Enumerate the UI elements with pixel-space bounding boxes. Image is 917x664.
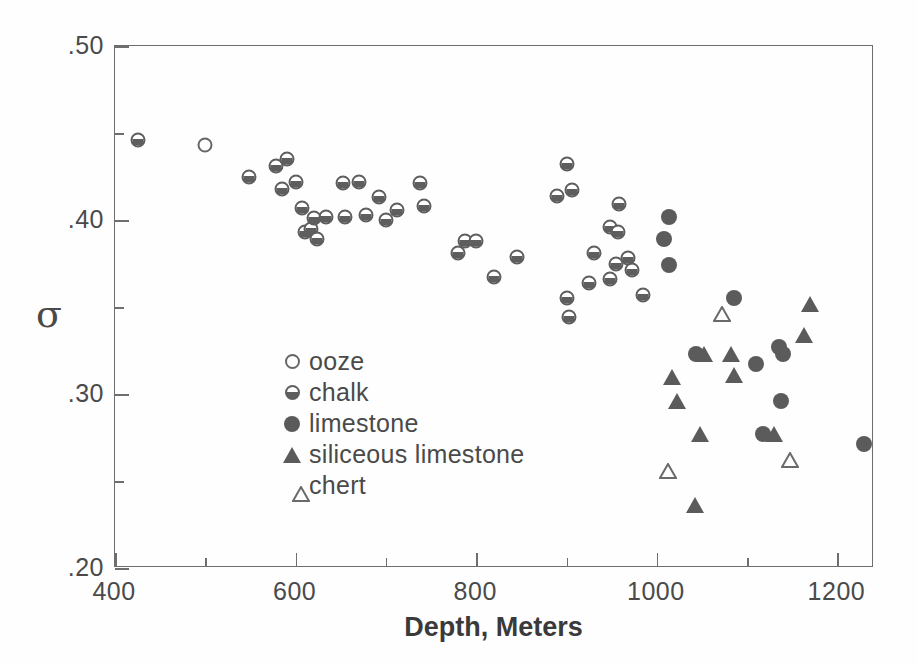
data-point-chalk [413,176,428,191]
data-point-siliceous-limestone [695,346,713,362]
data-point-limestone [775,346,791,362]
data-point-siliceous-limestone [801,296,819,312]
legend-item-chalk: chalk [275,377,605,408]
data-point-chalk [389,202,404,217]
data-point-chalk [279,152,294,167]
x-tick-label: 800 [454,577,497,606]
data-point-siliceous-limestone [722,346,740,362]
data-point-chalk [351,174,366,189]
x-tick-label: 600 [273,577,316,606]
legend-item-label: ooze [309,347,364,376]
data-point-siliceous-limestone [691,426,709,442]
legend-marker-icon [275,385,309,400]
data-point-limestone [773,393,789,409]
data-point-chalk [130,132,145,147]
legend-item-label: chalk [309,378,369,407]
y-tick-label: .40 [36,205,104,234]
y-tick-label: .50 [36,31,104,60]
data-point-chalk [562,310,577,325]
legend-item-label: siliceous limestone [309,440,525,469]
data-point-limestone [726,290,742,306]
legend: oozechalklimestonesiliceous limestoneche… [275,346,605,501]
data-point-chalk [241,169,256,184]
data-point-chalk [550,188,565,203]
legend-item-chert: chert [275,470,605,501]
data-point-chalk [611,197,626,212]
data-point-chalk [319,209,334,224]
legend-marker-icon [275,416,309,432]
y-axis-title: σ [36,292,62,336]
data-point-siliceous-limestone [686,497,704,513]
data-point-chalk [509,249,524,264]
data-point-siliceous-limestone [668,393,686,409]
y-tick-label: .30 [36,379,104,408]
data-point-chalk [359,207,374,222]
legend-marker-icon [275,354,309,369]
data-point-chalk [624,263,639,278]
data-point-chalk [564,183,579,198]
data-point-chalk [310,232,325,247]
legend-item-ooze: ooze [275,346,605,377]
data-point-chalk [416,199,431,214]
data-point-chalk [487,270,502,285]
data-point-siliceous-limestone [795,327,813,343]
data-point-chalk [602,272,617,287]
data-point-chalk [559,291,574,306]
data-point-chalk [582,275,597,290]
legend-item-label: chert [309,471,366,500]
data-point-limestone [656,231,672,247]
data-point-limestone [661,257,677,273]
data-point-chalk [338,209,353,224]
data-point-chalk [335,176,350,191]
data-point-chalk [371,190,386,205]
data-point-limestone [661,209,677,225]
legend-item-limestone: limestone [275,408,605,439]
x-axis-title: Depth, Meters [114,612,873,643]
data-point-limestone [856,436,872,452]
legend-item-label: limestone [309,409,419,438]
data-point-ooze [198,138,213,153]
data-point-siliceous-limestone [663,369,681,385]
data-point-chalk [288,174,303,189]
data-point-siliceous-limestone [725,367,743,383]
x-tick-label: 1200 [808,577,866,606]
y-tick-label: .20 [36,553,104,582]
data-point-limestone [748,356,764,372]
data-point-chalk [559,157,574,172]
data-point-chalk [469,233,484,248]
legend-marker-icon [275,447,309,463]
data-point-chalk [586,246,601,261]
legend-item-siliceous-limestone: siliceous limestone [275,439,605,470]
data-point-chalk [610,225,625,240]
data-point-siliceous-limestone [765,426,783,442]
x-tick-label: 1000 [627,577,685,606]
y-tick-major [115,568,129,570]
scatter-plot-figure: σ Depth, Meters 40060080010001200.20.30.… [0,0,917,664]
data-point-chalk [636,287,651,302]
plot-frame: oozechalklimestonesiliceous limestoneche… [114,45,873,567]
